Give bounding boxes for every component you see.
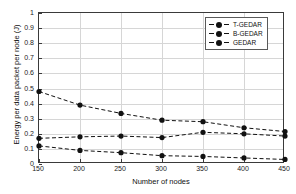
data-point-marker [282,129,287,134]
legend-item: B-GEDAR [209,29,263,38]
data-point-marker [159,135,164,140]
y-tick-label: 0.3 [24,114,34,121]
y-tick-label: 0.5 [24,84,34,91]
legend-item-label: T-GEDAR [233,20,262,29]
legend-line-sample-icon [209,29,230,38]
legend-item-label: B-GEDAR [233,29,263,38]
y-tick-label: 0.2 [24,129,34,136]
y-tick-label: 0.9 [24,24,34,31]
x-tick-label: 400 [237,165,249,172]
data-point-marker [200,119,205,124]
data-point-marker [77,148,82,153]
x-tick-label: 150 [32,165,44,172]
x-tick-label: 200 [73,165,85,172]
x-tick-label: 450 [278,165,290,172]
legend-line-sample-icon [209,20,230,29]
data-point-marker [36,89,41,94]
x-tick-label: 250 [114,165,126,172]
data-point-marker [159,118,164,123]
data-point-marker [282,157,287,162]
y-tick-label: 0.8 [24,39,34,46]
legend-item: GEDAR [209,38,263,47]
y-tick-label: 0.1 [24,144,34,151]
data-point-marker [77,134,82,139]
y-tick-label: 0.6 [24,69,34,76]
data-point-marker [241,131,246,136]
legend-line-sample-icon [209,38,230,47]
y-tick-label: 0.7 [24,54,34,61]
y-tick-label: 0.4 [24,99,34,106]
data-point-marker [36,136,41,141]
data-point-marker [200,130,205,135]
data-point-marker [200,154,205,159]
legend-item: T-GEDAR [209,20,263,29]
data-point-marker [241,155,246,160]
data-point-marker [118,150,123,155]
data-point-marker [118,133,123,138]
y-axis-title: Energy per data packet per node (J) [12,15,21,155]
data-point-marker [241,125,246,130]
data-point-marker [118,111,123,116]
legend-item-label: GEDAR [233,38,256,47]
legend: T-GEDAR B-GEDAR GEDAR [205,17,268,50]
data-point-marker [77,103,82,108]
y-tick-label: 1 [30,9,34,16]
data-point-marker [159,153,164,158]
data-point-marker [282,133,287,138]
x-tick-label: 300 [155,165,167,172]
x-axis-title: Number of nodes [38,177,284,186]
data-point-marker [36,143,41,148]
figure-canvas: 00.10.20.30.40.50.60.70.80.91 1502002503… [0,0,296,194]
series-line [39,92,285,132]
x-tick-label: 350 [196,165,208,172]
